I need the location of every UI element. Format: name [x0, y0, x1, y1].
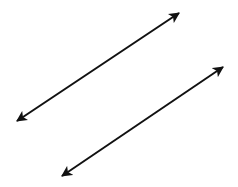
background	[0, 0, 238, 187]
parallel-lines-diagram	[0, 0, 238, 187]
